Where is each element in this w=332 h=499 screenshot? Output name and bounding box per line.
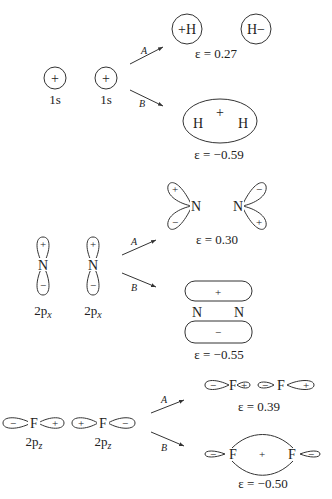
lobe-sign-minus: −: [210, 379, 216, 391]
orbital-2px-right: + − N: [87, 237, 99, 295]
antibonding-pz-right: − + F: [258, 378, 314, 393]
atom-n: N: [38, 258, 48, 273]
orbital-label-1s-left: 1s: [49, 92, 61, 107]
atom-f-left: F: [229, 447, 237, 462]
arrow-a: [122, 240, 156, 255]
sign-plus: +: [259, 448, 265, 460]
atom-n-left: N: [192, 305, 202, 320]
path-label-b: B: [139, 98, 145, 109]
antibonding-px-left: + − N: [168, 183, 202, 230]
lobe-sign-plus: +: [256, 216, 262, 228]
orbital-2pz-right: + − F: [72, 416, 135, 431]
atom-f: F: [229, 378, 237, 393]
path-label-b: B: [131, 282, 137, 293]
lobe-sign-plus: +: [40, 238, 46, 250]
orbital-2pz-left: − + F: [3, 416, 64, 431]
orbital-label-2pz-left: 2pz: [26, 434, 43, 451]
arrow-a: [151, 400, 184, 413]
atom-n: N: [233, 199, 243, 214]
lobe-sign-plus: +: [241, 379, 247, 391]
energy-a-2px: ε = 0.30: [196, 232, 238, 247]
antibonding-pz-left: − + F: [205, 378, 250, 393]
orbital-label-2px-right: 2px: [84, 303, 102, 320]
sign-plus: +: [51, 71, 59, 86]
antibonding-px-right: − + N: [232, 183, 266, 230]
energy-a-2pz: ε = 0.39: [238, 399, 280, 414]
row-1s: + 1s + 1s A B +H H− ε = 0.27 + H H ε = −…: [44, 14, 271, 162]
lobe-sign-plus: +: [52, 417, 58, 429]
lobe-sign-plus: +: [90, 238, 96, 250]
lobe-sign-minus: −: [256, 183, 262, 195]
path-label-a: A: [140, 45, 148, 56]
arrow-b: [130, 90, 163, 106]
atom-n-right: N: [234, 305, 244, 320]
lobe-sign-minus: −: [308, 448, 314, 460]
atom-f: F: [277, 378, 285, 393]
atom-h-left: H: [193, 116, 203, 131]
lobe-sign-minus: −: [90, 279, 96, 291]
sign-plus: +: [102, 71, 110, 86]
sign-minus: −: [215, 326, 221, 338]
orbital-diagram: + 1s + 1s A B +H H− ε = 0.27 + H H ε = −…: [0, 0, 332, 499]
row-2pz: − + F 2pz + − F 2pz A B − + F: [3, 378, 320, 491]
energy-b-2pz: ε = −0.50: [238, 476, 287, 491]
path-label-b: B: [161, 442, 167, 453]
atom-n: N: [88, 258, 98, 273]
lobe-sign-minus: −: [122, 417, 128, 429]
sign-plus: +: [215, 286, 221, 298]
lobe-sign-minus: −: [172, 216, 178, 228]
row-2px: + − N 2px + − N 2px A B + − N: [34, 183, 266, 362]
lobe-sign-plus: +: [172, 183, 178, 195]
path-label-a: A: [160, 394, 168, 405]
atom-n: N: [191, 199, 201, 214]
arrow-b: [122, 273, 156, 287]
orbital-label-2px-left: 2px: [34, 303, 52, 320]
atom-f: F: [99, 416, 107, 431]
energy-a-1s: ε = 0.27: [195, 46, 238, 61]
lobe-sign-minus: −: [40, 279, 46, 291]
product-h-minus-label: H−: [247, 22, 265, 37]
lobe-sign-minus: −: [10, 417, 16, 429]
lobe-sign-minus: −: [210, 448, 216, 460]
orbital-label-1s-right: 1s: [100, 92, 112, 107]
arrow-b: [151, 432, 184, 446]
atom-f-right: F: [288, 447, 296, 462]
product-h-plus-label: +H: [178, 22, 196, 37]
bonding-pz-sigma: − F + F −: [205, 435, 320, 476]
sign-plus: +: [216, 105, 224, 120]
energy-b-2px: ε = −0.55: [194, 347, 243, 362]
lobe-sign-plus: +: [78, 417, 84, 429]
orbital-label-2pz-right: 2pz: [95, 434, 112, 451]
lobe-sign-minus: −: [262, 379, 268, 391]
path-label-a: A: [130, 236, 138, 247]
atom-f: F: [30, 416, 38, 431]
energy-b-1s: ε = −0.59: [194, 147, 243, 162]
atom-h-right: H: [238, 116, 248, 131]
lobe-sign-plus: +: [303, 379, 309, 391]
orbital-2px-left: + − N: [37, 237, 49, 295]
